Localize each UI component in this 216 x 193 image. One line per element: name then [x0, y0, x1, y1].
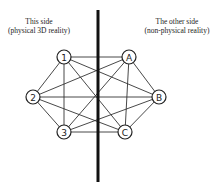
node-label: 3 [61, 128, 67, 138]
node-label: A [126, 53, 133, 63]
edge-2-A [33, 57, 129, 97]
node-label: 1 [61, 53, 67, 63]
node-C: C [118, 125, 132, 139]
node-A: A [122, 50, 136, 64]
node-label: 2 [30, 93, 36, 103]
node-2: 2 [26, 90, 40, 104]
node-B: B [152, 90, 166, 104]
edge-A-C [125, 57, 129, 132]
node-label: B [156, 93, 162, 103]
node-3: 3 [57, 125, 71, 139]
edges-group [33, 57, 159, 132]
node-1: 1 [57, 50, 71, 64]
node-label: C [122, 128, 128, 138]
connection-diagram: 123ABC [0, 0, 216, 193]
